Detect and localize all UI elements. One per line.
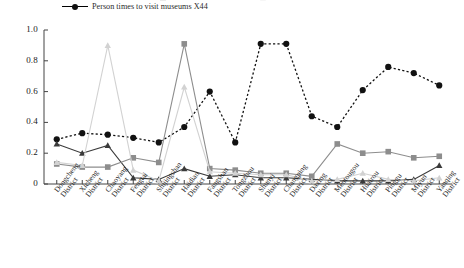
data-point-square — [156, 160, 162, 166]
data-point-dot — [334, 124, 340, 130]
legend-item-partial-2 — [250, 0, 280, 2]
data-point-dot — [130, 135, 136, 141]
data-point-dot — [156, 139, 162, 145]
data-point-square — [334, 141, 340, 147]
plot-area: 00.20.40.60.81.0 DongchengDistrictXichen… — [0, 18, 458, 268]
data-point-square — [385, 149, 391, 155]
x-axis-ticks: DongchengDistrictXichengDistrictChaoyang… — [0, 18, 458, 98]
data-point-square — [411, 155, 417, 161]
legend-item-museum-visits: Person times to visit museums X44 — [62, 2, 208, 11]
data-point-triangle — [105, 142, 111, 148]
data-point-square — [105, 164, 111, 170]
data-point-dot — [309, 113, 315, 119]
y-tick-label: 0 — [12, 178, 38, 188]
y-tick-label: 0.2 — [12, 147, 38, 157]
data-point-dot — [232, 139, 238, 145]
data-point-dot — [105, 132, 111, 138]
legend-label-museum-visits: Person times to visit museums X44 — [92, 2, 208, 11]
data-point-dot — [79, 130, 85, 136]
data-point-square — [436, 153, 442, 159]
chart-legend: Person times to visit museums X44 — [0, 0, 458, 18]
y-tick-label: 0.4 — [12, 116, 38, 126]
data-point-triangle — [436, 162, 442, 168]
legend-swatch-triangle-icon — [250, 0, 276, 2]
data-point-dot — [181, 124, 187, 130]
data-point-triangle — [54, 141, 60, 147]
data-point-square — [360, 150, 366, 156]
legend-swatch-dot-icon — [62, 2, 88, 11]
